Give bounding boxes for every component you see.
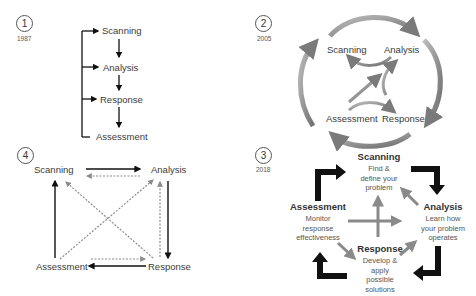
step-scanning-title: Scanning bbox=[357, 151, 401, 162]
desc-line: possible bbox=[350, 275, 410, 285]
desc-line: effectiveness bbox=[288, 233, 348, 243]
desc-line: apply bbox=[350, 266, 410, 276]
step-scanning-desc: Find & define your problem bbox=[350, 164, 408, 193]
desc-line: define your bbox=[350, 174, 408, 184]
desc-line: operates bbox=[413, 233, 473, 243]
desc-line: Find & bbox=[350, 164, 408, 174]
desc-line: Learn how bbox=[413, 214, 473, 224]
desc-line: Develop & bbox=[350, 256, 410, 266]
desc-line: Monitor bbox=[288, 214, 348, 224]
step-response-title: Response bbox=[352, 243, 408, 254]
step-analysis-title: Analysis bbox=[418, 201, 468, 212]
desc-line: problem bbox=[350, 183, 408, 193]
step-assessment-title: Assessment bbox=[288, 201, 348, 212]
step-response-desc: Develop & apply possible solutions bbox=[350, 256, 410, 294]
desc-line: solutions bbox=[350, 285, 410, 295]
step-assessment-desc: Monitor response effectiveness bbox=[288, 214, 348, 243]
step-analysis-desc: Learn how your problem operates bbox=[413, 214, 473, 243]
desc-line: your problem bbox=[413, 224, 473, 234]
desc-line: response bbox=[288, 224, 348, 234]
